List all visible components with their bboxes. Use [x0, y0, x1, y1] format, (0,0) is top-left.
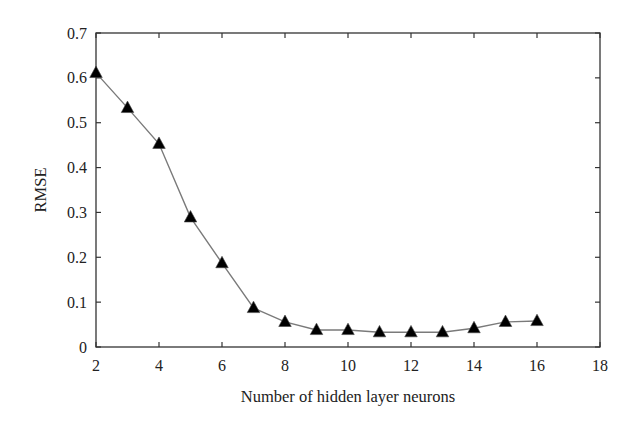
x-tick-label: 10 [340, 357, 356, 374]
y-tick-label: 0.5 [67, 114, 87, 131]
x-tick-label: 14 [466, 357, 482, 374]
y-tick-label: 0.1 [67, 294, 87, 311]
x-tick-label: 4 [155, 357, 163, 374]
triangle-marker-icon [342, 323, 355, 334]
y-axis-title: RMSE [31, 168, 50, 213]
y-axis: 00.10.20.30.40.50.60.7 [67, 25, 600, 356]
x-tick-label: 2 [92, 357, 100, 374]
x-tick-label: 6 [218, 357, 226, 374]
plot-area [96, 33, 600, 347]
triangle-marker-icon [184, 211, 197, 222]
x-tick-label: 18 [592, 357, 608, 374]
triangle-marker-icon [531, 314, 544, 325]
triangle-marker-icon [499, 315, 512, 326]
y-tick-label: 0 [79, 339, 87, 356]
triangle-marker-icon [216, 256, 229, 267]
x-tick-label: 16 [529, 357, 545, 374]
x-axis: 24681012141618 [92, 33, 608, 374]
series-line [96, 73, 537, 332]
triangle-marker-icon [279, 315, 292, 326]
y-tick-label: 0.4 [67, 159, 87, 176]
rmse-line-chart: 00.10.20.30.40.50.60.7 24681012141618 Nu… [0, 0, 630, 428]
plot-frame [96, 33, 600, 347]
x-tick-label: 8 [281, 357, 289, 374]
y-tick-label: 0.6 [67, 69, 87, 86]
x-axis-title: Number of hidden layer neurons [241, 387, 455, 406]
y-tick-label: 0.2 [67, 249, 87, 266]
y-tick-label: 0.7 [67, 25, 87, 42]
triangle-marker-icon [90, 66, 103, 77]
data-series [90, 66, 544, 337]
triangle-marker-icon [373, 325, 386, 336]
triangle-marker-icon [405, 325, 418, 336]
x-tick-label: 12 [403, 357, 419, 374]
y-tick-label: 0.3 [67, 204, 87, 221]
